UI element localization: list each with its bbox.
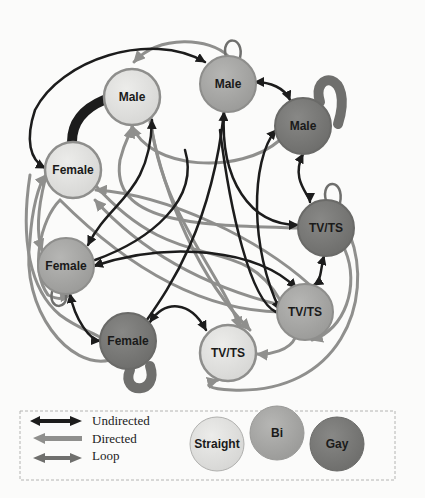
legend-label-loop: Loop — [92, 448, 119, 463]
legend-label-gay: Gay — [326, 437, 349, 451]
legend-loop: Loop — [33, 448, 119, 463]
edge-undirected — [314, 256, 324, 285]
legend-label-undirected: Undirected — [92, 413, 150, 428]
edge-undirected — [255, 82, 290, 100]
edge-undirected — [299, 154, 310, 202]
node-label: Female — [45, 259, 87, 273]
network-diagram: Male Male Male Female TV/TS Female TV/TS — [0, 0, 425, 498]
legend-label-directed: Directed — [92, 431, 137, 446]
node-male-bi[interactable]: Male — [200, 56, 256, 112]
edge-directed — [257, 338, 295, 354]
legend-label-straight: Straight — [194, 437, 239, 451]
node-label: Male — [290, 119, 317, 133]
legend: Undirected Directed Loop Straight Bi Gay — [20, 406, 395, 480]
legend-label-bi: Bi — [271, 426, 283, 440]
edge-directed — [119, 127, 298, 228]
node-male-gay[interactable]: Male — [275, 98, 331, 154]
edge-undirected — [150, 306, 206, 330]
node-tvts-gay[interactable]: TV/TS — [298, 200, 354, 256]
legend-undirected: Undirected — [30, 413, 150, 428]
nodes: Male Male Male Female TV/TS Female TV/TS — [38, 56, 354, 381]
node-male-straight[interactable]: Male — [104, 69, 160, 125]
node-tvts-straight[interactable]: TV/TS — [200, 325, 256, 381]
legend-straight: Straight — [190, 417, 244, 471]
node-label: TV/TS — [288, 305, 322, 319]
node-female-straight[interactable]: Female — [45, 142, 101, 198]
loop-arrow-icon — [33, 453, 82, 463]
node-female-gay[interactable]: Female — [100, 313, 156, 369]
edge-undirected — [72, 100, 104, 142]
directed-arrow-icon — [33, 433, 82, 444]
node-label: Female — [107, 334, 149, 348]
node-label: TV/TS — [309, 221, 343, 235]
node-label: Male — [119, 90, 146, 104]
node-label: Male — [215, 77, 242, 91]
legend-bi: Bi — [250, 406, 304, 460]
edge-directed — [96, 190, 310, 285]
node-label: TV/TS — [211, 346, 245, 360]
legend-gay: Gay — [310, 417, 364, 471]
node-label: Female — [52, 163, 94, 177]
node-tvts-bi[interactable]: TV/TS — [277, 284, 333, 340]
node-female-bi[interactable]: Female — [38, 238, 94, 294]
legend-directed: Directed — [33, 431, 137, 446]
undirected-arrow-icon — [30, 416, 82, 426]
